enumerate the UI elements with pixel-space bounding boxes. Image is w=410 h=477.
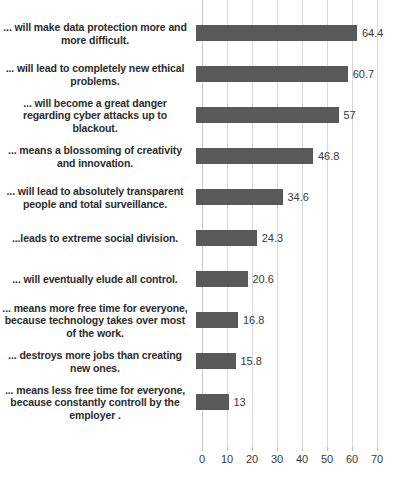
bar-value-label: 24.3 [262,230,283,246]
bar [196,189,283,205]
x-tick-label: 60 [346,453,358,465]
bar-row: ... will lead to completely new ethical … [0,54,410,95]
category-label: ...leads to extreme social division. [0,232,196,244]
horizontal-bar-chart: ... will make data protection more and m… [0,0,410,477]
x-tick-label: 40 [296,453,308,465]
bar-row: ... means less free time for everyone, b… [0,382,410,423]
bar [196,312,238,328]
x-tick-label: 0 [199,453,205,465]
category-label: ... will become a great danger regarding… [0,97,196,134]
bar [196,25,357,41]
bar-value-label: 13 [234,394,246,410]
bar-row: ... means more free time for everyone, b… [0,300,410,341]
x-tick-label: 10 [221,453,233,465]
bar-track: 64.4 [196,13,410,54]
bar-row: ... means a blossoming of creativity and… [0,136,410,177]
category-label: ... means a blossoming of creativity and… [0,144,196,169]
category-label: ... destroys more jobs than creating new… [0,349,196,374]
bar-row: ... destroys more jobs than creating new… [0,341,410,382]
bar-row: ... will eventually elude all control.20… [0,259,410,300]
bar-track: 57 [196,95,410,136]
bar-track: 34.6 [196,177,410,218]
x-tick-mark-40 [302,447,303,451]
bar-row: ...leads to extreme social division.24.3 [0,218,410,259]
bar-track: 60.7 [196,54,410,95]
bar-value-label: 34.6 [288,189,309,205]
category-label: ... will make data protection more and m… [0,21,196,46]
x-tick-mark-60 [352,447,353,451]
x-tick-mark-70 [377,447,378,451]
bar-track: 46.8 [196,136,410,177]
bar-track: 16.8 [196,300,410,341]
bar-value-label: 15.8 [241,353,262,369]
bar-track: 13 [196,382,410,423]
category-label: ... will lead to completely new ethical … [0,62,196,87]
bar-track: 24.3 [196,218,410,259]
bar-track: 15.8 [196,341,410,382]
bar-value-label: 16.8 [243,312,264,328]
bar [196,230,257,246]
bar [196,271,248,287]
x-tick-mark-20 [252,447,253,451]
category-label: ... will eventually elude all control. [0,273,196,285]
bar-value-label: 46.8 [318,148,339,164]
bar [196,394,229,410]
category-label: ... means less free time for everyone, b… [0,384,196,421]
bar-row: ... will lead to absolutely transparent … [0,177,410,218]
bar [196,148,313,164]
category-label: ... means more free time for everyone, b… [0,302,196,339]
x-tick-mark-10 [227,447,228,451]
bar-track: 20.6 [196,259,410,300]
x-tick-label: 70 [371,453,383,465]
x-tick-label: 20 [246,453,258,465]
bar [196,66,348,82]
x-tick-label: 30 [271,453,283,465]
bar-row: ... will become a great danger regarding… [0,95,410,136]
x-tick-mark-30 [277,447,278,451]
bar-value-label: 57 [344,107,356,123]
bar-value-label: 60.7 [353,66,374,82]
bar-value-label: 64.4 [362,25,383,41]
x-axis: 010203040506070 [202,447,377,477]
x-tick-mark-50 [327,447,328,451]
bar-value-label: 20.6 [253,271,274,287]
bar [196,353,236,369]
category-label: ... will lead to absolutely transparent … [0,185,196,210]
x-tick-label: 50 [321,453,333,465]
x-tick-mark-0 [202,447,203,451]
bar [196,107,339,123]
bar-row: ... will make data protection more and m… [0,13,410,54]
